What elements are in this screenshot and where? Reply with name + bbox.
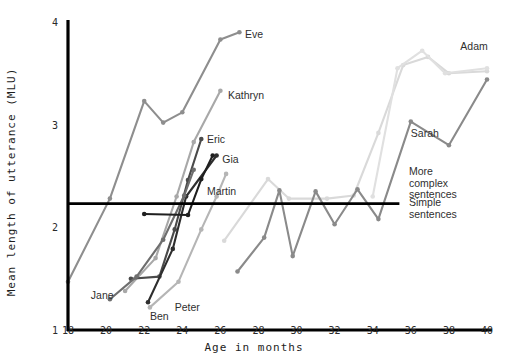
series-label-peter: Peter (175, 301, 200, 313)
data-point (277, 188, 282, 193)
x-tick-label: 18 (62, 325, 74, 336)
x-tick-label: 24 (176, 325, 188, 336)
data-point (191, 168, 196, 173)
data-point (313, 189, 318, 194)
data-point (153, 256, 158, 261)
series-label-ben: Ben (150, 310, 169, 322)
data-point (485, 66, 490, 71)
series-jane (108, 168, 196, 302)
data-point (376, 217, 381, 222)
data-point (176, 279, 181, 284)
data-point (222, 238, 227, 243)
x-tick-label: 34 (367, 325, 379, 336)
data-point (262, 235, 267, 240)
data-point (161, 120, 166, 125)
data-point (182, 193, 187, 198)
series-label-gia: Gia (222, 153, 238, 165)
data-point (325, 196, 330, 201)
series-label-kathryn: Kathryn (228, 89, 264, 101)
y-tick-label: 1 (42, 325, 58, 336)
series-line (110, 170, 194, 299)
x-axis-title: Age in months (0, 341, 508, 354)
data-point (142, 99, 147, 104)
data-point (370, 194, 375, 199)
series-label-jane: Jane (91, 289, 114, 301)
annotation-more-complex-line1: More (409, 166, 457, 178)
data-point (409, 119, 414, 124)
data-point (199, 137, 204, 142)
data-point (186, 213, 191, 218)
data-point (146, 300, 151, 305)
data-point (332, 222, 337, 227)
x-tick-label: 32 (329, 325, 341, 336)
data-point (210, 153, 215, 158)
x-tick-label: 30 (291, 325, 303, 336)
x-tick-label: 26 (214, 325, 226, 336)
series-label-eve: Eve (245, 28, 263, 40)
data-point (485, 77, 490, 82)
data-point (224, 172, 229, 177)
data-point (199, 177, 204, 182)
data-point (134, 274, 139, 279)
y-tick-label: 4 (42, 17, 58, 28)
x-tick-label: 38 (443, 325, 455, 336)
data-point (355, 187, 360, 192)
annotation-simple-line2: sentences (409, 209, 457, 221)
x-tick-label: 20 (100, 325, 112, 336)
series-label-adam: Adam (460, 40, 487, 52)
data-point (142, 212, 147, 217)
data-point (108, 196, 113, 201)
annotation-simple: Simple sentences (409, 197, 457, 220)
data-point (447, 143, 452, 148)
y-tick-label: 3 (42, 119, 58, 130)
data-point (199, 227, 204, 232)
data-point (191, 140, 196, 145)
annotation-simple-line1: Simple (409, 197, 457, 209)
data-point (174, 194, 179, 199)
series-label-sarah: Sarah (411, 127, 439, 139)
data-point (235, 269, 240, 274)
chart-container: Mean length of utterance (MLU) 182022242… (0, 0, 508, 363)
x-tick-label: 22 (138, 325, 150, 336)
x-tick-label: 36 (405, 325, 417, 336)
series-label-eric: Eric (207, 133, 225, 145)
x-tick-label: 28 (252, 325, 264, 336)
data-point (218, 89, 223, 94)
data-point (180, 110, 185, 115)
data-point (287, 196, 292, 201)
series-eric (129, 137, 204, 281)
data-point (290, 254, 295, 259)
data-point (395, 66, 400, 71)
x-tick-label: 40 (481, 325, 493, 336)
data-point (266, 177, 271, 182)
y-tick-label: 2 (42, 222, 58, 233)
data-point (420, 48, 425, 53)
data-point (161, 237, 166, 242)
data-point (218, 37, 223, 42)
data-point (123, 289, 128, 294)
data-point (171, 247, 176, 252)
data-point (443, 71, 448, 76)
series-label-martin: Martin (207, 185, 236, 197)
data-point (376, 131, 381, 136)
data-point (237, 30, 242, 35)
